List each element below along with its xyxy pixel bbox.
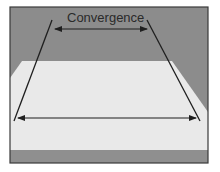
floor-plane	[10, 61, 208, 150]
convergence-diagram: Convergence	[0, 0, 220, 172]
diagram-canvas	[0, 0, 220, 172]
convergence-label: Convergence	[67, 10, 144, 25]
floor-bottom-strip	[10, 150, 208, 163]
